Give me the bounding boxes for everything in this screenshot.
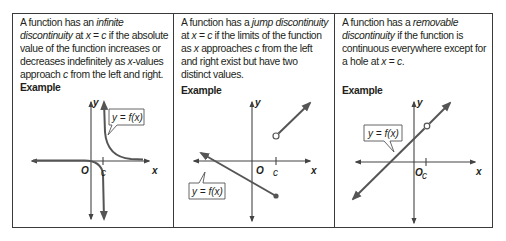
y-axis-label: y <box>92 97 99 108</box>
x-axis-label: x <box>310 165 317 176</box>
c-label: c <box>422 170 427 181</box>
curve-left-branch <box>33 160 104 219</box>
origin-label: O <box>256 165 264 176</box>
x-axis-label: x <box>151 165 158 176</box>
origin-label: O <box>81 165 89 176</box>
discontinuity-types-table: A function has an infinite discontinuity… <box>12 13 493 228</box>
removable-discontinuity-cell: A function has a removable discontinuity… <box>334 14 492 227</box>
x-axis-label: x <box>475 166 482 177</box>
curve-upper-part <box>430 103 451 124</box>
infinite-discontinuity-cell: A function has an infinite discontinuity… <box>13 14 173 227</box>
jump-discontinuity-graph: y x O c y = f(x) <box>174 14 335 229</box>
jump-discontinuity-cell: A function has a jump discontinuity at x… <box>173 14 334 227</box>
open-circle <box>273 133 279 139</box>
y-axis-label: y <box>416 97 423 108</box>
function-label: y = f(x) <box>191 186 223 197</box>
infinite-discontinuity-graph: y x O c y = f(x) <box>13 14 173 229</box>
y-axis-label: y <box>254 97 261 108</box>
function-label: y = f(x) <box>111 112 143 123</box>
hole <box>424 123 430 129</box>
c-label: c <box>101 167 106 178</box>
closed-dot <box>273 193 278 198</box>
curve-right-piece <box>279 103 311 134</box>
removable-discontinuity-graph: y x O c y = f(x) <box>335 14 493 229</box>
c-label: c <box>273 167 278 178</box>
function-label: y = f(x) <box>367 128 399 139</box>
